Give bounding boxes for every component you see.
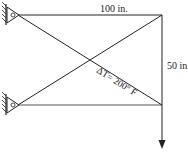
bottom-left-pin-support xyxy=(2,92,19,115)
top-dimension-label: 100 in. xyxy=(100,3,128,14)
right-dimension-label: 50 in xyxy=(167,60,187,71)
pin-icon xyxy=(11,13,15,17)
pin-icon xyxy=(11,103,15,107)
arrow-down-icon xyxy=(159,140,166,149)
temperature-label: ΔT= 200° F xyxy=(95,65,139,98)
truss-diagram: 100 in. 50 in ΔT= 200° F xyxy=(0,0,188,152)
top-left-pin-support xyxy=(2,2,19,25)
